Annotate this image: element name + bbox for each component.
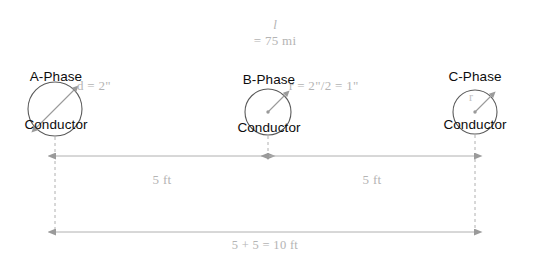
c-phase-caption-line1: C-Phase [427, 69, 523, 85]
b-phase-radius-label: r = 2"/2 = 1" [289, 78, 359, 93]
a-phase-caption-line2: Conductor [8, 117, 104, 133]
dimension-label-total: 5 + 5 = 10 ft [205, 238, 325, 253]
line-length-variable: l [273, 17, 277, 32]
a-phase-caption: A-Phase Conductor [8, 37, 104, 164]
c-phase-caption-line2: Conductor [427, 117, 523, 133]
c-phase-radius-label: r [469, 90, 473, 104]
dimension-label-a-to-b: 5 ft [102, 172, 222, 187]
c-phase-caption: C-Phase Conductor [427, 37, 523, 164]
b-phase-caption: B-Phase Conductor [221, 40, 317, 167]
conductor-spacing-diagram: l = 75 mi A-Phase Conductor B-Phase Cond… [0, 0, 534, 253]
dimension-label-b-to-c: 5 ft [312, 172, 432, 187]
b-phase-caption-line2: Conductor [221, 120, 317, 136]
a-phase-diameter-label: d = 2" [77, 78, 111, 93]
